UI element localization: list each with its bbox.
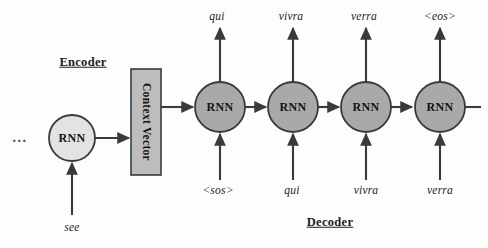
seq2seq-diagram: Encoder Decoder ... Context Vector RNN s… bbox=[0, 0, 488, 248]
decoder-rnn-cell-4-label: RNN bbox=[426, 101, 453, 113]
sequence-continuation-ellipsis: ... bbox=[13, 131, 28, 145]
decoder-output-token-2: vivra bbox=[279, 11, 304, 23]
decoder-output-token-1: qui bbox=[209, 11, 224, 23]
diagram-canvas bbox=[0, 0, 488, 248]
decoder-input-token-1: <sos> bbox=[202, 185, 233, 197]
encoder-input-token-1: see bbox=[64, 222, 79, 234]
decoder-input-token-3: vivra bbox=[354, 185, 379, 197]
encoder-rnn-cell-1-label: RNN bbox=[58, 132, 85, 144]
decoder-rnn-cell-2-label: RNN bbox=[279, 101, 306, 113]
decoder-input-token-4: verra bbox=[427, 185, 453, 197]
context-vector-label: Context Vector bbox=[140, 83, 152, 161]
encoder-section-title: Encoder bbox=[59, 56, 106, 69]
decoder-rnn-cell-3-label: RNN bbox=[352, 101, 379, 113]
decoder-input-token-2: qui bbox=[284, 185, 299, 197]
decoder-rnn-cell-1-label: RNN bbox=[206, 101, 233, 113]
decoder-section-title: Decoder bbox=[307, 216, 354, 229]
decoder-output-token-4: <eos> bbox=[424, 11, 456, 23]
decoder-output-token-3: verra bbox=[351, 11, 377, 23]
